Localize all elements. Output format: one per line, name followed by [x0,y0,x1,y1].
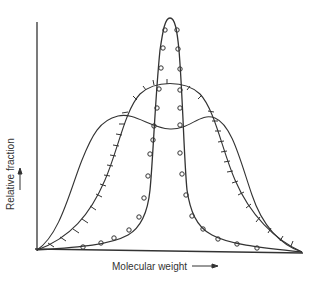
y-axis-arrow-icon [18,168,22,190]
medium-curve-ticks [48,79,293,247]
x-axis [35,249,303,253]
x-axis-label: Molecular weight [112,261,187,272]
y-axis-label: Relative fraction [5,138,16,210]
medium-curve [37,84,302,253]
x-axis-arrow-icon [192,264,218,268]
molecular-weight-distribution-diagram [0,0,320,285]
